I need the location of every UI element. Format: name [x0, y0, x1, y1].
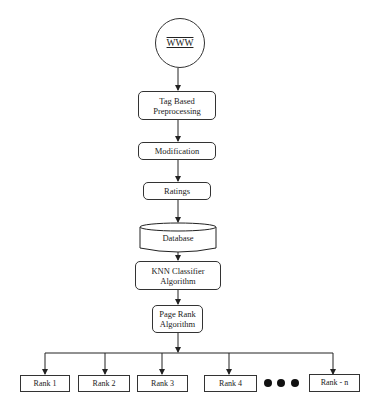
www-label: WWW — [166, 38, 195, 48]
rank-1-label: Rank 1 — [34, 379, 57, 389]
page-rank-node: Page Rank Algorithm — [152, 305, 203, 333]
dot-icon — [291, 379, 299, 387]
knn-label-line1: KNN Classifier — [151, 266, 204, 276]
rank-n-node: Rank - n — [309, 374, 360, 392]
rank-4-label: Rank 4 — [219, 379, 242, 389]
rank-n-label: Rank - n — [321, 378, 349, 388]
dot-icon — [277, 379, 285, 387]
page-rank-label-line1: Page Rank — [159, 309, 196, 319]
tag-based-label-line1: Tag Based — [159, 96, 195, 106]
modification-node: Modification — [138, 142, 216, 160]
www-node: WWW — [155, 18, 205, 68]
rank-1-node: Rank 1 — [20, 375, 70, 392]
ratings-label: Ratings — [164, 186, 190, 196]
rank-2-node: Rank 2 — [78, 375, 130, 392]
dot-icon — [264, 379, 272, 387]
tag-based-label-line2: Preprocessing — [153, 106, 201, 116]
database-label: Database — [162, 233, 193, 243]
modification-label: Modification — [155, 146, 199, 156]
knn-label-line2: Algorithm — [160, 276, 195, 286]
ratings-node: Ratings — [143, 182, 211, 200]
rank-3-label: Rank 3 — [151, 379, 174, 389]
page-rank-label-line2: Algorithm — [160, 319, 195, 329]
database-node: Database — [140, 228, 216, 248]
tag-based-preprocessing-node: Tag Based Preprocessing — [138, 91, 216, 120]
knn-classifier-node: KNN Classifier Algorithm — [135, 261, 221, 290]
rank-4-node: Rank 4 — [204, 375, 257, 392]
rank-2-label: Rank 2 — [93, 379, 116, 389]
rank-3-node: Rank 3 — [137, 375, 188, 392]
